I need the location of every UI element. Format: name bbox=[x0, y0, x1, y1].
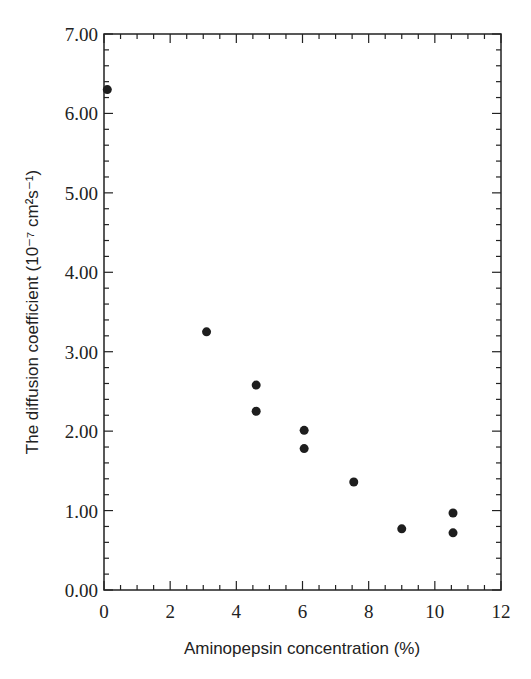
y-tick-label: 0.00 bbox=[65, 580, 98, 601]
plot-frame bbox=[104, 34, 501, 590]
data-point bbox=[300, 444, 309, 453]
y-tick-label: 5.00 bbox=[65, 183, 98, 204]
axis-ticks bbox=[104, 34, 501, 590]
x-tick-label: 6 bbox=[298, 601, 308, 622]
x-tick-labels: 024681012 bbox=[99, 601, 510, 622]
data-point bbox=[202, 327, 211, 336]
data-point bbox=[252, 381, 261, 390]
y-tick-label: 1.00 bbox=[65, 501, 98, 522]
y-tick-label: 6.00 bbox=[65, 103, 98, 124]
data-point bbox=[349, 477, 358, 486]
x-axis-label: Aminopepsin concentration (%) bbox=[184, 639, 420, 658]
y-tick-label: 3.00 bbox=[65, 342, 98, 363]
data-point bbox=[449, 508, 458, 517]
x-tick-label: 0 bbox=[99, 601, 109, 622]
y-tick-label: 2.00 bbox=[65, 421, 98, 442]
y-axis-label: The diffusion coefficient (10⁻⁷ cm²s⁻¹) bbox=[23, 170, 42, 454]
x-tick-label: 2 bbox=[165, 601, 175, 622]
data-point bbox=[252, 407, 261, 416]
data-point bbox=[300, 426, 309, 435]
y-tick-label: 7.00 bbox=[65, 24, 98, 45]
data-points bbox=[103, 85, 458, 537]
x-tick-label: 4 bbox=[232, 601, 242, 622]
y-tick-label: 4.00 bbox=[65, 262, 98, 283]
x-tick-label: 12 bbox=[492, 601, 511, 622]
data-point bbox=[103, 85, 112, 94]
scatter-chart: 0.001.002.003.004.005.006.007.00 0246810… bbox=[0, 0, 531, 679]
x-tick-label: 8 bbox=[364, 601, 374, 622]
x-tick-label: 10 bbox=[425, 601, 444, 622]
data-point bbox=[397, 524, 406, 533]
y-tick-labels: 0.001.002.003.004.005.006.007.00 bbox=[65, 24, 98, 601]
data-point bbox=[449, 528, 458, 537]
